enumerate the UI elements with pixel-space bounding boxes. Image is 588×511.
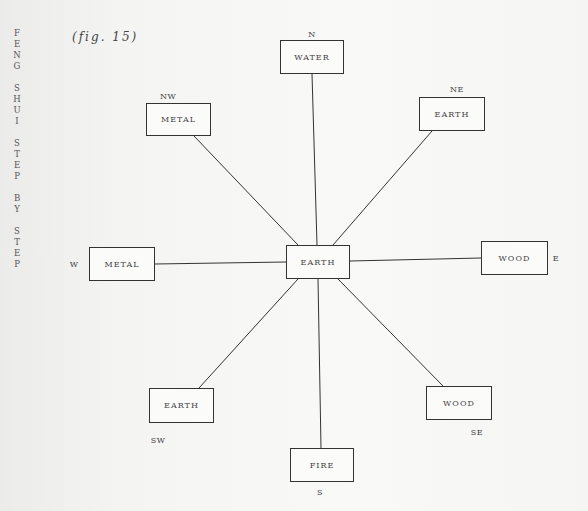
center-element-label: EARTH (301, 258, 336, 267)
element-label: METAL (161, 115, 196, 124)
connector-line-sw (199, 279, 298, 388)
center-box-earth: EARTH (286, 245, 350, 279)
connector-line-s (318, 279, 321, 448)
direction-label-n: N (308, 30, 316, 39)
direction-label-sw: SW (151, 436, 166, 445)
connector-line-e (350, 258, 481, 261)
direction-label-nw: NW (160, 92, 176, 101)
direction-label-w: W (70, 260, 79, 269)
element-box-w: METAL (89, 247, 155, 281)
element-box-nw: METAL (146, 103, 211, 136)
direction-label-se: SE (471, 428, 483, 437)
element-label: FIRE (310, 461, 335, 470)
element-box-se: WOOD (426, 386, 492, 420)
connector-line-n (312, 74, 317, 245)
element-label: WOOD (443, 399, 475, 408)
element-label: EARTH (435, 110, 470, 119)
direction-label-ne: NE (450, 85, 464, 94)
element-box-e: WOOD (481, 241, 548, 275)
element-box-ne: EARTH (419, 97, 485, 131)
element-label: EARTH (164, 401, 199, 410)
element-box-n: WATER (280, 40, 344, 74)
connector-line-se (338, 279, 443, 386)
connector-line-nw (194, 136, 298, 245)
connector-line-ne (333, 131, 432, 245)
element-label: METAL (104, 260, 139, 269)
element-label: WOOD (499, 254, 531, 263)
element-box-sw: EARTH (149, 388, 214, 423)
direction-label-s: S (317, 488, 323, 497)
direction-label-e: E (553, 254, 559, 263)
connector-line-w (155, 262, 286, 264)
element-label: WATER (294, 53, 329, 62)
element-box-s: FIRE (290, 448, 354, 482)
